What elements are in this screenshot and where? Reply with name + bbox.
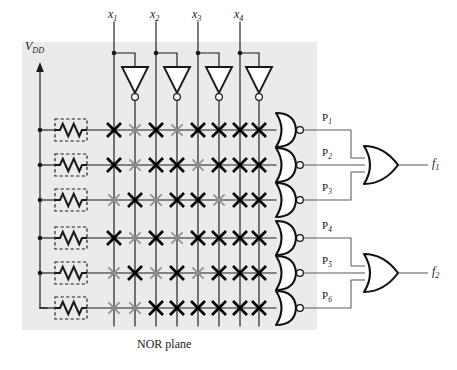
input-label-x3: x3 [192, 8, 201, 24]
nor-plane-caption: NOR plane [137, 338, 191, 350]
or-gate-f1 [364, 146, 398, 184]
product-term-label-p5: P5 [322, 255, 332, 269]
product-term-label-p3: P3 [322, 182, 332, 196]
pla-diagram-root: x1 x2 x3 x4 VDD P1 P2 P3 P4 P5 P6 f1 f2 … [0, 0, 457, 370]
output-label-f1: f1 [432, 157, 439, 173]
product-term-label-p6: P6 [322, 290, 332, 304]
product-term-label-p4: P4 [322, 220, 332, 234]
nor-plane-background [22, 42, 317, 330]
input-label-x2: x2 [150, 8, 159, 24]
product-term-label-p2: P2 [322, 147, 332, 161]
input-label-x1: x1 [108, 8, 117, 24]
product-term-label-p1: P1 [322, 112, 332, 126]
or-gate-f2 [364, 254, 398, 292]
output-label-f2: f2 [432, 265, 439, 281]
vdd-label: VDD [25, 40, 44, 56]
pla-circuit-svg [0, 0, 457, 370]
output-or-group [302, 130, 428, 308]
input-label-x4: x4 [234, 8, 243, 24]
